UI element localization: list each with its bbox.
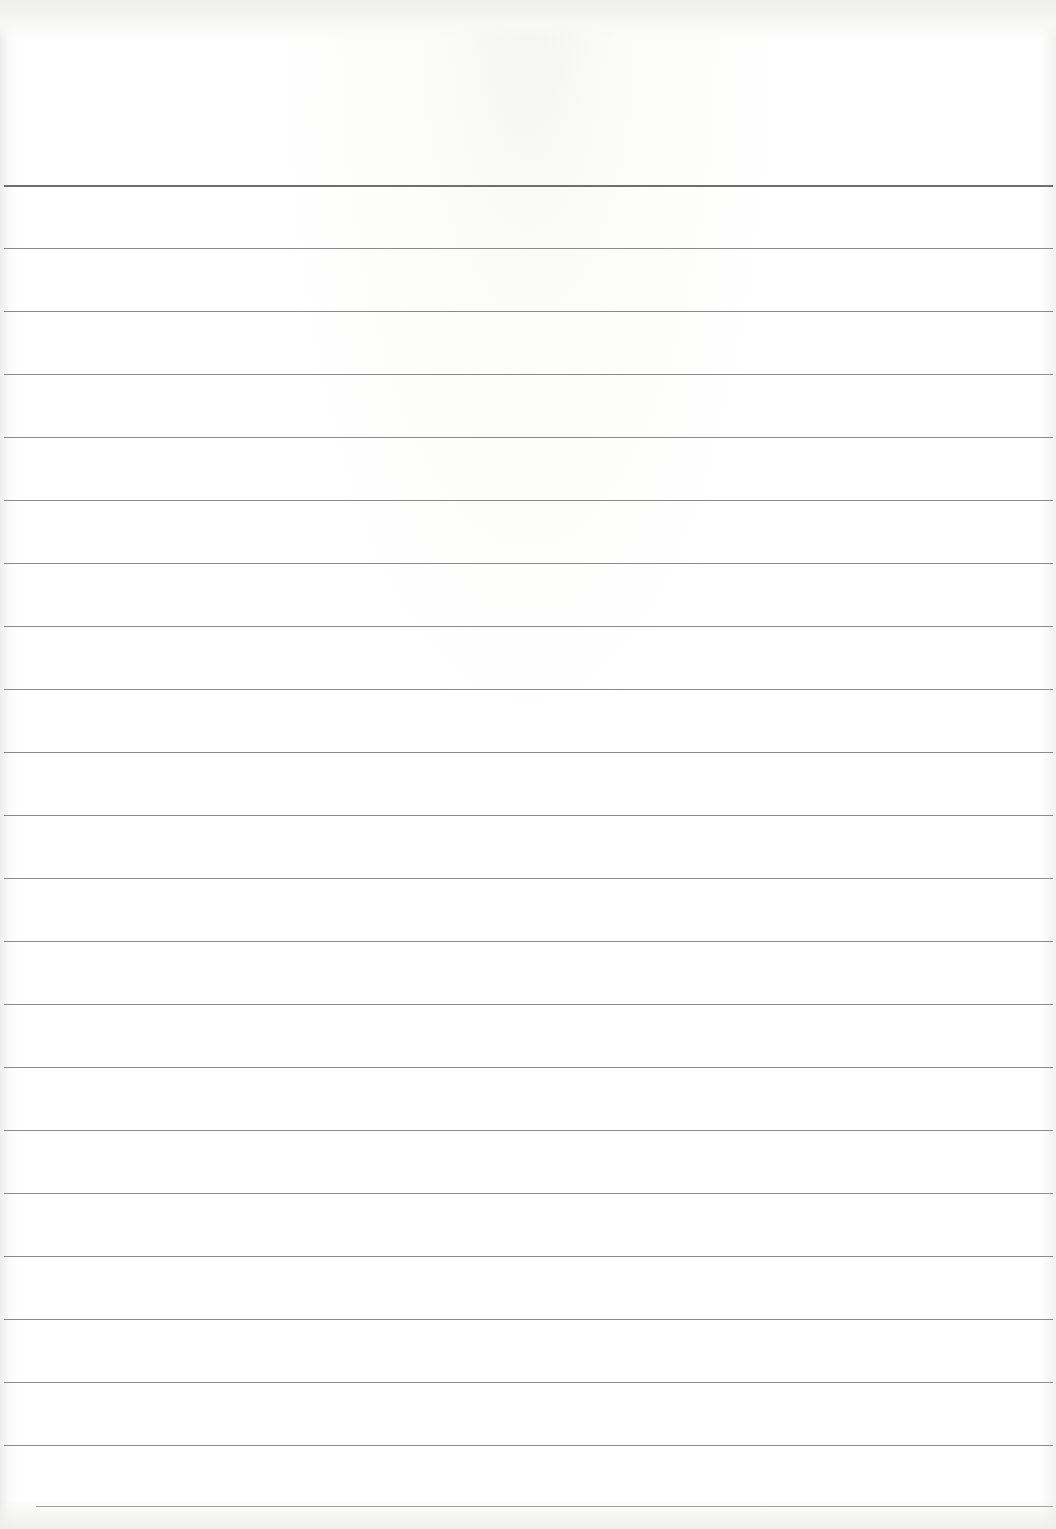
rule-line	[4, 500, 1053, 501]
rule-line	[4, 1004, 1053, 1005]
rule-line	[4, 1382, 1053, 1383]
rule-line	[4, 626, 1053, 627]
rule-line	[4, 563, 1053, 564]
rule-line	[4, 1319, 1053, 1320]
rule-line	[4, 311, 1053, 312]
header-rule-line	[4, 185, 1053, 187]
rule-line	[4, 689, 1053, 690]
paper-top-shading	[0, 0, 1056, 40]
rule-line	[4, 437, 1053, 438]
paper-bottom-shading	[0, 1499, 1056, 1529]
rule-line	[4, 1130, 1053, 1131]
rule-line	[4, 1067, 1053, 1068]
rule-line	[4, 941, 1053, 942]
rule-line	[4, 248, 1053, 249]
rule-line	[4, 878, 1053, 879]
rule-line	[4, 374, 1053, 375]
lined-paper-sheet	[0, 0, 1056, 1529]
rule-line	[4, 1193, 1053, 1194]
rule-line	[4, 1256, 1053, 1257]
rule-line	[4, 1445, 1053, 1446]
rule-line	[4, 815, 1053, 816]
rule-line	[4, 752, 1053, 753]
